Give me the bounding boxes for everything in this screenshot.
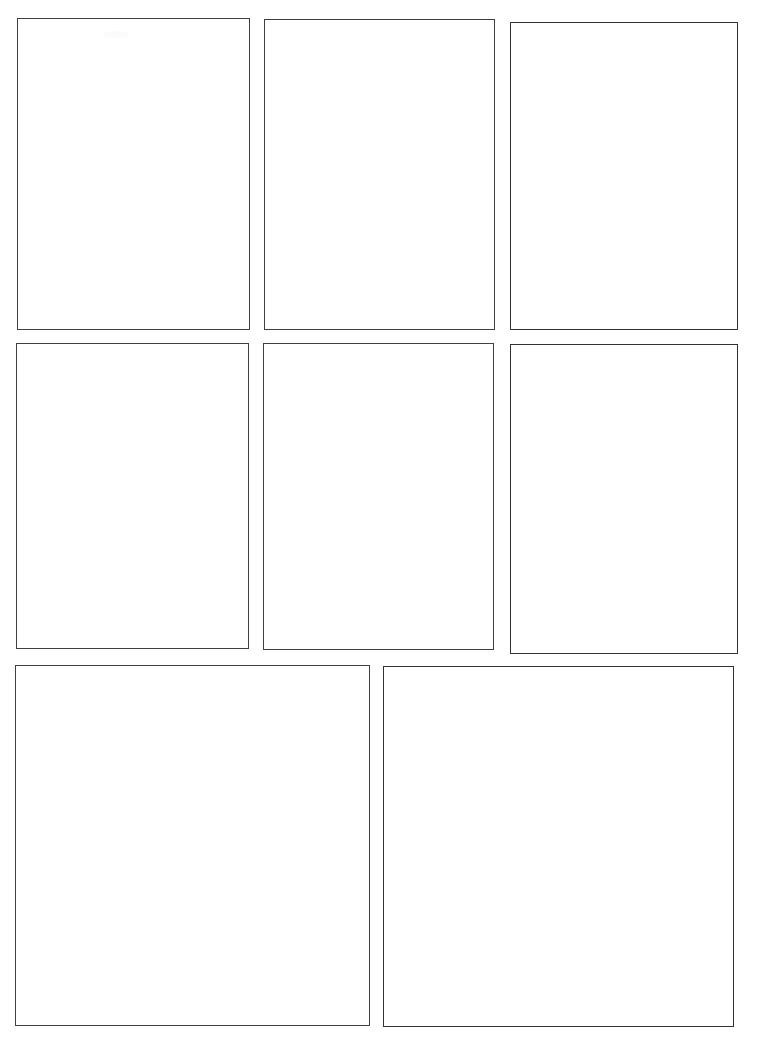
panel-7[interactable] xyxy=(15,665,370,1026)
panel-3[interactable] xyxy=(510,22,738,330)
panel-8[interactable] xyxy=(383,666,734,1027)
panel-8-content xyxy=(384,667,733,1026)
panel-1[interactable] xyxy=(17,18,250,330)
panel-2-content xyxy=(265,20,494,329)
page-canvas xyxy=(0,0,767,1053)
panel-1-content xyxy=(18,19,249,329)
panel-5-content xyxy=(264,344,493,649)
panel-4[interactable] xyxy=(16,343,249,649)
panel-6[interactable] xyxy=(510,344,738,654)
panel-7-content xyxy=(16,666,369,1025)
panel-2[interactable] xyxy=(264,19,495,330)
panel-5[interactable] xyxy=(263,343,494,650)
panel-3-content xyxy=(511,23,737,329)
panel-4-content xyxy=(17,344,248,648)
panel-6-content xyxy=(511,345,737,653)
